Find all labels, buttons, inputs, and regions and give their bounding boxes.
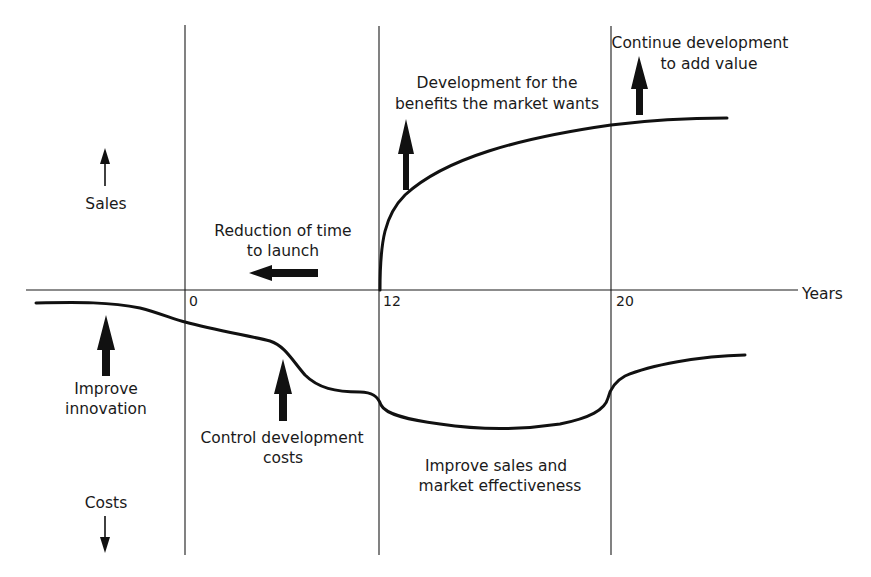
continue-label-line1: Continue development bbox=[612, 34, 789, 52]
control-label-line2: costs bbox=[263, 449, 303, 467]
innovation-label-line2: innovation bbox=[65, 400, 147, 418]
tick-20: 20 bbox=[616, 293, 634, 309]
reduction-label-line1: Reduction of time bbox=[214, 222, 351, 240]
continue-up-arrow-icon bbox=[631, 56, 648, 115]
costs-down-arrow-icon bbox=[100, 516, 110, 553]
costs-axis-label: Costs bbox=[85, 494, 128, 512]
innovation-up-arrow-icon bbox=[97, 315, 115, 376]
reduction-left-arrow-icon bbox=[249, 265, 318, 281]
innovation-label-line1: Improve bbox=[74, 380, 138, 398]
years-axis-label: Years bbox=[801, 285, 843, 303]
tick-0: 0 bbox=[189, 293, 198, 309]
control-up-arrow-icon bbox=[274, 359, 292, 421]
sales-curve bbox=[380, 118, 727, 290]
sales-effectiveness-label-line2: market effectiveness bbox=[419, 477, 582, 495]
sales-effectiveness-label-line1: Improve sales and bbox=[425, 457, 567, 475]
control-label-line1: Control development bbox=[200, 429, 363, 447]
continue-label-line2: to add value bbox=[661, 55, 758, 73]
sales-up-arrow-icon bbox=[100, 148, 110, 186]
development-label-line1: Development for the bbox=[417, 74, 578, 92]
tick-12: 12 bbox=[383, 293, 401, 309]
reduction-label-line2: to launch bbox=[247, 242, 319, 260]
sales-axis-label: Sales bbox=[85, 195, 126, 213]
product-lifecycle-diagram: Years 0 12 20 Sales Costs Reduction of t… bbox=[0, 0, 871, 577]
development-up-arrow-icon bbox=[398, 119, 414, 190]
development-label-line2: benefits the market wants bbox=[395, 95, 599, 113]
